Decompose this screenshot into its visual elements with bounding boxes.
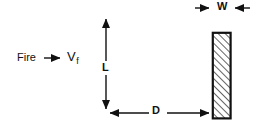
width-dimension-label: W	[217, 1, 227, 12]
hatched-rectangle-icon	[213, 33, 231, 119]
fire-label: Fire	[17, 52, 36, 63]
fire-exposure-diagram: Fire Vf L D W	[0, 0, 259, 131]
distance-dimension-label: D	[152, 105, 160, 116]
velocity-symbol: V	[67, 49, 76, 64]
diagram-canvas	[0, 0, 259, 131]
length-dimension-label: L	[102, 62, 109, 73]
flame-velocity-label: Vf	[67, 50, 79, 66]
velocity-subscript: f	[76, 56, 79, 66]
